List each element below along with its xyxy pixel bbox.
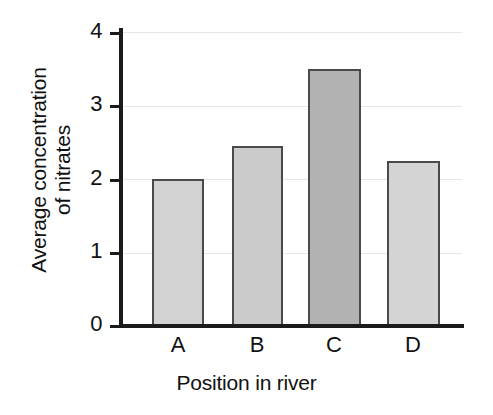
y-axis-line [119,28,123,328]
y-tick-mark-1 [110,252,120,255]
y-tick-label-1: 1 [62,238,102,264]
x-axis-title: Position in river [0,371,493,395]
y-tick-mark-3 [110,105,120,108]
bar-b [232,146,283,326]
gridline-y-3 [122,106,462,107]
bar-d [387,161,440,326]
bar-a [152,179,204,326]
x-tick-label-d: D [383,332,443,358]
y-tick-label-2: 2 [62,165,102,191]
y-tick-label-4: 4 [62,18,102,44]
x-axis-line [119,324,464,328]
plot-area [122,32,462,326]
y-tick-label-0: 0 [62,311,102,337]
y-tick-mark-4 [110,32,120,35]
y-tick-mark-0 [110,325,120,328]
bar-c [308,69,361,326]
y-tick-label-3: 3 [62,91,102,117]
y-axis-title-line-1: Average concentration [27,67,50,273]
x-tick-label-c: C [304,332,364,358]
y-tick-mark-2 [110,179,120,182]
gridline-y-4 [122,32,462,33]
x-tick-label-a: A [148,332,208,358]
bar-chart: Average concentrationof nitrates 4 3 2 1… [0,0,493,415]
x-tick-label-b: B [227,332,287,358]
